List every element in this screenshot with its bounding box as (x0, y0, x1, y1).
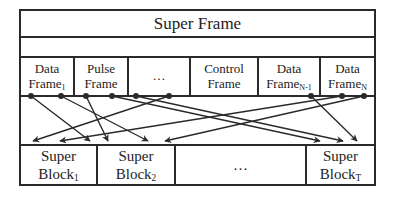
source-dot-icon (339, 93, 345, 99)
source-dot-icon (133, 93, 139, 99)
mapping-arrow (136, 96, 343, 141)
mapping-arrow (112, 96, 320, 141)
source-dot-icon (83, 93, 89, 99)
source-dot-icon (58, 93, 64, 99)
mapping-arrow (31, 96, 90, 141)
source-dot-icon (361, 93, 367, 99)
source-dot-icon (308, 93, 314, 99)
source-dot-icon (28, 93, 34, 99)
source-dot-icon (109, 93, 115, 99)
source-dot-icon (166, 93, 172, 99)
mapping-arrows (0, 0, 393, 197)
